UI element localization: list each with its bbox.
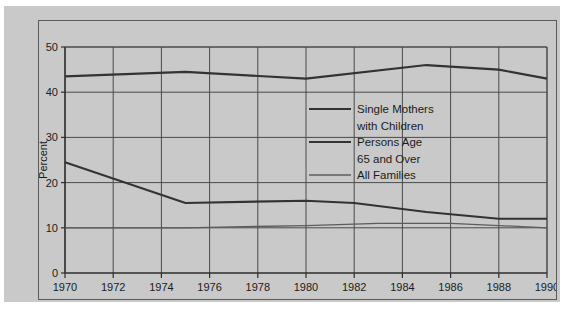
legend-label-3: 65 and Over (357, 153, 420, 165)
legend-label-4: All Families (357, 169, 416, 181)
x-tick-label: 1970 (53, 281, 77, 293)
figure-frame: 0102030405019701972197419761978198019821… (38, 20, 557, 300)
x-tick-label: 1974 (149, 281, 173, 293)
y-tick-label: 50 (46, 41, 58, 53)
chart-screenshot: 0102030405019701972197419761978198019821… (0, 0, 577, 324)
x-tick-label: 1986 (438, 281, 462, 293)
scanned-page-panel: 0102030405019701972197419761978198019821… (4, 6, 560, 302)
x-tick-label: 1984 (390, 281, 414, 293)
legend-label-0: Single Mothers (357, 103, 434, 115)
y-tick-label: 0 (52, 267, 58, 279)
x-tick-label: 1972 (101, 281, 125, 293)
y-tick-label: 40 (46, 86, 58, 98)
legend-label-2: Persons Age (357, 136, 422, 148)
legend-label-1: with Children (356, 120, 423, 132)
x-tick-label: 1978 (246, 281, 270, 293)
x-axis-title: Year (295, 297, 318, 299)
x-tick-label: 1976 (197, 281, 221, 293)
y-axis-title: Percent (39, 141, 49, 179)
x-tick-label: 1990 (535, 281, 556, 293)
x-tick-label: 1988 (487, 281, 511, 293)
x-tick-label: 1982 (342, 281, 366, 293)
y-tick-label: 10 (46, 222, 58, 234)
x-tick-label: 1980 (294, 281, 318, 293)
line-chart: 0102030405019701972197419761978198019821… (39, 21, 556, 299)
